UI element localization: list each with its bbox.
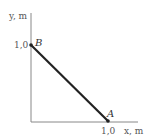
y-tick-label: 1,0 [14, 40, 29, 50]
point-b-label: B [34, 37, 42, 48]
point-a-marker [106, 119, 110, 123]
y-axis-label: y, m [8, 11, 28, 21]
point-a-label: A [106, 108, 114, 119]
segment-ab [31, 45, 108, 121]
x-tick-label: 1,0 [101, 126, 116, 136]
point-b-marker [29, 43, 33, 47]
coordinate-diagram: y, m 1,0 B A 1,0 x, m [0, 0, 151, 137]
x-axis-label: x, m [124, 126, 144, 136]
